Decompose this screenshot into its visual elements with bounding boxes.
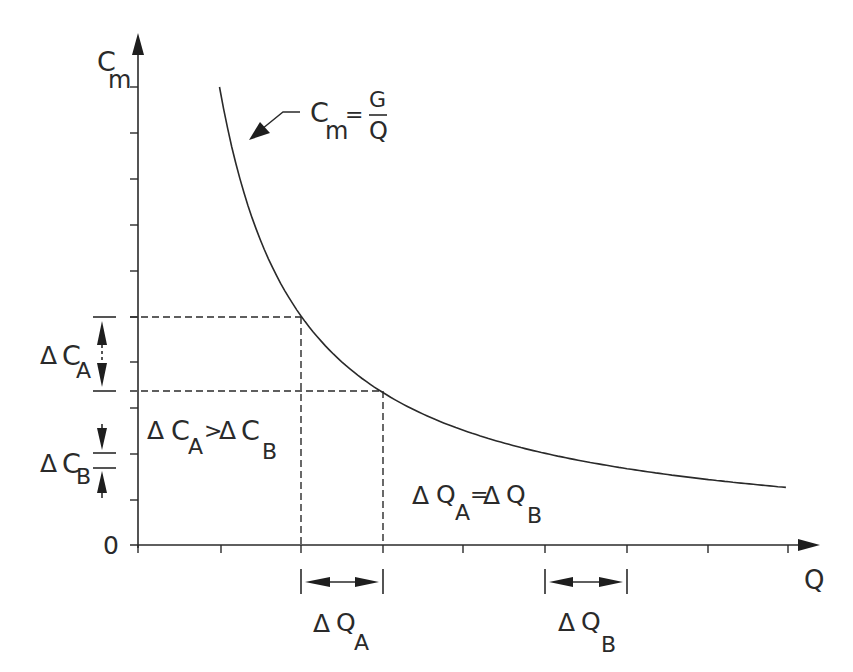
compare-q-delta-b: Δ	[483, 483, 500, 508]
delta-qb-main: Q	[581, 609, 601, 634]
arrow-right-icon	[355, 577, 379, 587]
arrow-down-icon	[97, 428, 107, 450]
compare-q-main-a: Q	[436, 482, 456, 507]
y-axis-label-sub: m	[108, 68, 131, 92]
x-axis-label: Q	[804, 567, 824, 593]
compare-c-main-b: C	[241, 417, 260, 444]
compare-c-sub-b: B	[262, 441, 277, 463]
arrow-right-icon	[599, 577, 623, 587]
delta-qa-sub: A	[354, 632, 369, 654]
cost-curve-diagram	[0, 0, 853, 672]
y-axis-ticks	[130, 87, 138, 500]
arrow-up-icon	[97, 321, 107, 345]
x-axis-arrow-icon	[798, 539, 820, 551]
delta-qb-symbol: Δ	[558, 610, 575, 635]
equation-denominator: Q	[369, 119, 388, 143]
arrow-left-icon	[549, 577, 573, 587]
equation-numerator: G	[369, 89, 386, 111]
delta-qa-symbol: Δ	[313, 611, 330, 636]
equation-leader-line	[262, 112, 300, 129]
equation-equals: =	[345, 104, 363, 126]
compare-q-main-b: Q	[506, 482, 526, 507]
compare-q-delta-a: Δ	[412, 483, 429, 508]
delta-qb-sub: B	[601, 634, 616, 656]
delta-qa-main: Q	[336, 610, 356, 635]
compare-c-sub-a: A	[188, 436, 203, 458]
delta-cb-sub: B	[76, 466, 91, 488]
compare-q-sub-b: B	[527, 505, 542, 527]
arrow-down-icon	[97, 363, 107, 387]
compare-q-sub-a: A	[455, 502, 470, 524]
x-axis-ticks	[138, 545, 788, 553]
delta-cb-symbol: Δ	[40, 451, 57, 476]
delta-ca-sub: A	[76, 360, 91, 382]
delta-ca-dimension	[93, 317, 116, 391]
arrow-left-icon	[305, 577, 330, 587]
arrow-up-icon	[97, 471, 107, 493]
origin-label: 0	[103, 533, 119, 558]
compare-c-delta-a: Δ	[147, 418, 164, 443]
cost-curve	[220, 87, 786, 487]
compare-c-delta-b: Δ	[219, 418, 236, 443]
y-axis-arrow-icon	[132, 33, 144, 55]
delta-ca-symbol: Δ	[40, 343, 57, 368]
